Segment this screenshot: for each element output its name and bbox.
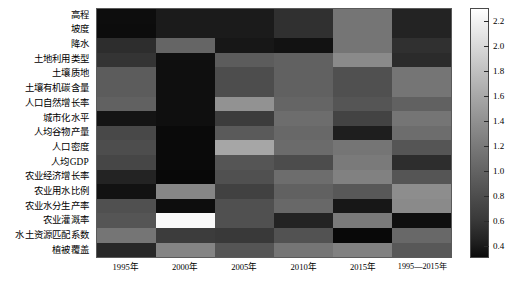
heatmap-cell bbox=[392, 228, 451, 243]
heatmap-cell bbox=[97, 199, 156, 214]
heatmap-cell bbox=[156, 170, 215, 185]
heatmap-cell bbox=[333, 67, 392, 82]
heatmap-cell bbox=[97, 67, 156, 82]
heatmap-cell bbox=[156, 126, 215, 141]
heatmap-cell bbox=[97, 111, 156, 126]
heatmap-cell bbox=[392, 9, 451, 24]
heatmap-grid bbox=[96, 8, 452, 258]
heatmap-row bbox=[97, 24, 451, 39]
y-axis-label: 降水 bbox=[0, 37, 93, 52]
heatmap-cell bbox=[333, 38, 392, 53]
heatmap-cell bbox=[392, 199, 451, 214]
heatmap-figure: 高程 坡度 降水 土地利用类型 土壤质地 土壤有机碳含量 人口自然增长率 城市化… bbox=[0, 0, 522, 289]
heatmap-cell bbox=[274, 111, 333, 126]
y-axis-label: 人口自然增长率 bbox=[0, 96, 93, 111]
heatmap-row bbox=[97, 38, 451, 53]
heatmap-row bbox=[97, 140, 451, 155]
y-axis-label: 农业用水比例 bbox=[0, 184, 93, 199]
x-axis-labels: 1995年 2000年 2005年 2010年 2015年 1995—2015年 bbox=[96, 260, 452, 278]
colorbar-tick-label: 1.2 bbox=[493, 141, 504, 150]
heatmap-cell bbox=[333, 199, 392, 214]
colorbar-tick-mark bbox=[484, 171, 489, 172]
heatmap-cell bbox=[274, 126, 333, 141]
heatmap-cell bbox=[215, 24, 274, 39]
heatmap-cell bbox=[274, 184, 333, 199]
heatmap-cell bbox=[392, 213, 451, 228]
heatmap-cell bbox=[215, 199, 274, 214]
heatmap-cell bbox=[215, 170, 274, 185]
heatmap-cell bbox=[333, 9, 392, 24]
colorbar-tick-mark bbox=[484, 71, 489, 72]
heatmap-cell bbox=[97, 213, 156, 228]
heatmap-cell bbox=[392, 111, 451, 126]
colorbar-tick-label: 0.8 bbox=[493, 191, 504, 200]
heatmap-cell bbox=[215, 9, 274, 24]
y-axis-label: 城市化水平 bbox=[0, 111, 93, 126]
heatmap-cell bbox=[156, 67, 215, 82]
heatmap-cell bbox=[274, 155, 333, 170]
colorbar-tick-label: 0.4 bbox=[493, 241, 504, 250]
x-axis-label: 2010年 bbox=[274, 260, 333, 278]
heatmap-row bbox=[97, 97, 451, 112]
heatmap-row bbox=[97, 228, 451, 243]
heatmap-cell bbox=[274, 243, 333, 258]
heatmap-cell bbox=[392, 97, 451, 112]
heatmap-cell bbox=[215, 97, 274, 112]
heatmap-cell bbox=[97, 243, 156, 258]
heatmap-row bbox=[97, 67, 451, 82]
heatmap-cell bbox=[333, 155, 392, 170]
heatmap-cell bbox=[333, 111, 392, 126]
heatmap-row bbox=[97, 9, 451, 24]
heatmap-cell bbox=[392, 24, 451, 39]
colorbar-tick-mark bbox=[484, 221, 489, 222]
y-axis-labels: 高程 坡度 降水 土地利用类型 土壤质地 土壤有机碳含量 人口自然增长率 城市化… bbox=[0, 8, 93, 258]
heatmap-row bbox=[97, 213, 451, 228]
heatmap-cell bbox=[333, 213, 392, 228]
heatmap-cell bbox=[333, 140, 392, 155]
heatmap-cell bbox=[333, 24, 392, 39]
heatmap-cell bbox=[156, 9, 215, 24]
heatmap-row bbox=[97, 126, 451, 141]
heatmap-row bbox=[97, 184, 451, 199]
y-axis-label: 人口密度 bbox=[0, 140, 93, 155]
colorbar-tick-label: 1.6 bbox=[493, 91, 504, 100]
y-axis-label: 农业经济增长率 bbox=[0, 170, 93, 185]
heatmap-cell bbox=[97, 53, 156, 68]
colorbar-tick-mark bbox=[484, 21, 489, 22]
heatmap-cell bbox=[156, 155, 215, 170]
heatmap-cell bbox=[333, 53, 392, 68]
heatmap-cell bbox=[97, 24, 156, 39]
heatmap-cell bbox=[274, 199, 333, 214]
heatmap-cell bbox=[156, 38, 215, 53]
heatmap-cell bbox=[215, 184, 274, 199]
heatmap-cell bbox=[215, 38, 274, 53]
x-axis-label: 2005年 bbox=[215, 260, 274, 278]
heatmap-cell bbox=[215, 243, 274, 258]
heatmap-cell bbox=[274, 140, 333, 155]
heatmap-cell bbox=[97, 82, 156, 97]
x-axis-label: 1995年 bbox=[96, 260, 155, 278]
heatmap-cell bbox=[156, 243, 215, 258]
heatmap-cell bbox=[392, 184, 451, 199]
y-axis-label: 农业水分生产率 bbox=[0, 199, 93, 214]
colorbar-tick-mark bbox=[484, 196, 489, 197]
heatmap-row bbox=[97, 170, 451, 185]
heatmap-cell bbox=[97, 126, 156, 141]
heatmap-cell bbox=[333, 228, 392, 243]
colorbar-tick-mark bbox=[484, 246, 489, 247]
y-axis-label: 人均谷物产量 bbox=[0, 126, 93, 141]
heatmap-cell bbox=[156, 97, 215, 112]
heatmap-row bbox=[97, 243, 451, 258]
heatmap-cell bbox=[97, 38, 156, 53]
colorbar-legend: 2.22.01.81.61.41.21.00.80.60.4 bbox=[470, 8, 520, 258]
colorbar-tick-label: 2.2 bbox=[493, 16, 504, 25]
heatmap-cell bbox=[156, 140, 215, 155]
heatmap-cell bbox=[392, 155, 451, 170]
heatmap-cell bbox=[156, 199, 215, 214]
heatmap-cell bbox=[392, 38, 451, 53]
heatmap-cell bbox=[215, 213, 274, 228]
y-axis-label: 人均GDP bbox=[0, 155, 93, 170]
heatmap-cell bbox=[333, 97, 392, 112]
heatmap-cell bbox=[215, 155, 274, 170]
heatmap-cell bbox=[392, 170, 451, 185]
